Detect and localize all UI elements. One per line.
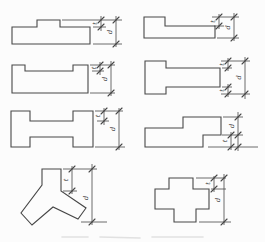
figure-outline xyxy=(145,61,220,94)
figure-outline xyxy=(21,169,86,225)
dimension-label: t xyxy=(221,139,229,142)
figure-rectangle-with-top-projection: td xyxy=(12,16,122,47)
figure-outline xyxy=(11,111,93,147)
dimension-label: t xyxy=(62,178,70,181)
figure-y-shape-plan: td xyxy=(21,164,107,225)
figure-stepped-z-shape-plan: td xyxy=(145,112,258,151)
dimension-label: d xyxy=(109,127,117,131)
dimension-label: t xyxy=(218,63,226,66)
caption-remnant-dash xyxy=(100,237,140,238)
dimension-label: d xyxy=(106,30,114,34)
figure-outline xyxy=(155,178,209,222)
figure-cross-shape-plan: td xyxy=(155,174,231,225)
dimension-label: t xyxy=(94,114,102,117)
dimension-label: t xyxy=(90,66,98,69)
scanned-figure-page: tdtdtdtdttdtdtdtd xyxy=(0,0,265,242)
figure-rectangle-with-top-recess: td xyxy=(12,61,115,96)
figure-l-shape-plan: td xyxy=(144,13,239,41)
figure-h-shape-plan: td xyxy=(11,108,125,150)
dimension-label: t xyxy=(209,20,217,23)
building-plan-shapes-drawing: tdtdtdtdttdtdtdtd xyxy=(0,0,265,242)
figure-t-shape-plan: ttd xyxy=(145,57,250,99)
dimension-label: t xyxy=(218,89,226,92)
cropped-caption-remnant xyxy=(62,237,203,238)
dimension-label: d xyxy=(82,196,90,200)
dimension-label: d xyxy=(224,25,232,29)
figure-outline xyxy=(145,117,221,147)
figure-outline xyxy=(12,65,88,93)
dimension-label: d xyxy=(228,124,236,128)
dimension-label: d xyxy=(235,75,243,79)
dimension-label: d xyxy=(214,198,222,202)
dimension-label: t xyxy=(91,22,99,25)
figure-outline xyxy=(144,17,215,38)
dimension-label: d xyxy=(101,77,109,81)
figure-outline xyxy=(12,20,90,44)
dimension-label: t xyxy=(204,182,212,185)
